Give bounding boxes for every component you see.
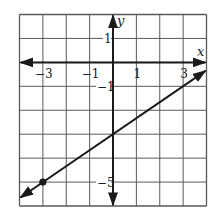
- x-axis-label: x: [197, 44, 205, 59]
- x-tick-label: −3: [35, 67, 53, 81]
- y-axis-label: y: [116, 13, 125, 28]
- graph: xy −3−1131−1−5: [0, 0, 216, 217]
- y-tick-label: −5: [97, 176, 115, 190]
- y-tick-label: 1: [104, 32, 112, 46]
- x-tick-label: 1: [133, 67, 141, 81]
- x-tick-label: 3: [180, 67, 188, 81]
- data-points: [39, 178, 46, 185]
- y-tick-label: −1: [97, 80, 115, 94]
- data-point-dot: [39, 178, 46, 185]
